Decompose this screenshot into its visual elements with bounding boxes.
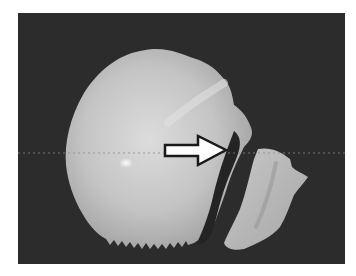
- figure-page: [0, 0, 356, 276]
- skull-photograph: [18, 13, 345, 264]
- skull-illustration: [18, 13, 345, 264]
- cranium-glint: [119, 158, 133, 168]
